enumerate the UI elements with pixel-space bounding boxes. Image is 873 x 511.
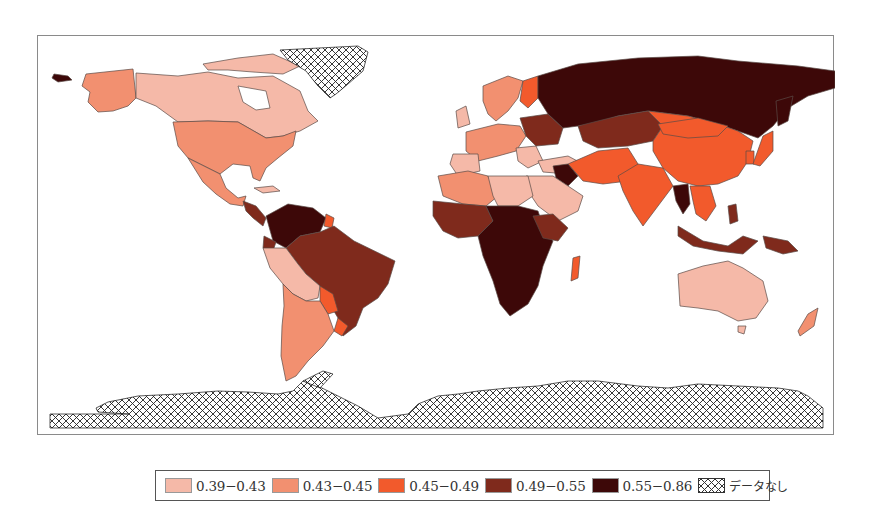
legend-item-2: 0.43−0.45 xyxy=(272,478,373,494)
region-antarctica xyxy=(50,381,823,428)
legend-label: 0.55−0.86 xyxy=(623,478,693,494)
region-balkans xyxy=(516,146,543,168)
region-central-america xyxy=(243,201,266,226)
legend-item-5: 0.55−0.86 xyxy=(592,478,693,494)
region-indonesia xyxy=(678,226,758,254)
legend-item-3: 0.45−0.49 xyxy=(378,478,479,494)
region-kamchatka xyxy=(776,96,793,126)
legend-label: 0.45−0.49 xyxy=(409,478,479,494)
region-scandinavia xyxy=(483,76,523,121)
map-legend: 0.39−0.43 0.43−0.45 0.45−0.49 0.49−0.55 … xyxy=(155,470,770,501)
region-alaska xyxy=(82,69,136,112)
region-cuba xyxy=(254,186,280,193)
region-chukotka xyxy=(52,74,72,82)
region-indochina xyxy=(690,186,716,221)
legend-swatch-0.55-0.86 xyxy=(592,478,619,493)
legend-label: データなし xyxy=(729,477,788,494)
region-australia xyxy=(678,261,768,321)
legend-item-1: 0.39−0.43 xyxy=(165,478,266,494)
region-uk xyxy=(456,106,470,128)
world-map xyxy=(37,35,834,435)
region-madagascar xyxy=(571,256,580,281)
region-png xyxy=(763,236,798,254)
legend-swatch-0.45-0.49 xyxy=(378,478,405,493)
region-tasmania xyxy=(738,326,746,334)
legend-item-4: 0.49−0.55 xyxy=(485,478,586,494)
legend-swatch-0.43-0.45 xyxy=(272,478,299,493)
region-india xyxy=(618,164,673,226)
legend-item-no-data: データなし xyxy=(698,477,788,494)
legend-label: 0.39−0.43 xyxy=(196,478,266,494)
legend-swatch-no-data xyxy=(698,478,725,493)
region-philippines xyxy=(728,204,738,224)
region-korea xyxy=(746,151,754,164)
legend-label: 0.43−0.45 xyxy=(303,478,373,494)
legend-label: 0.49−0.55 xyxy=(516,478,586,494)
region-myanmar xyxy=(673,184,690,214)
region-new-zealand xyxy=(798,308,818,336)
map-canvas xyxy=(38,36,835,436)
region-libya-egypt xyxy=(488,176,533,206)
legend-swatch-0.49-0.55 xyxy=(485,478,512,493)
region-guyana xyxy=(324,214,334,228)
legend-swatch-0.39-0.43 xyxy=(165,478,192,493)
